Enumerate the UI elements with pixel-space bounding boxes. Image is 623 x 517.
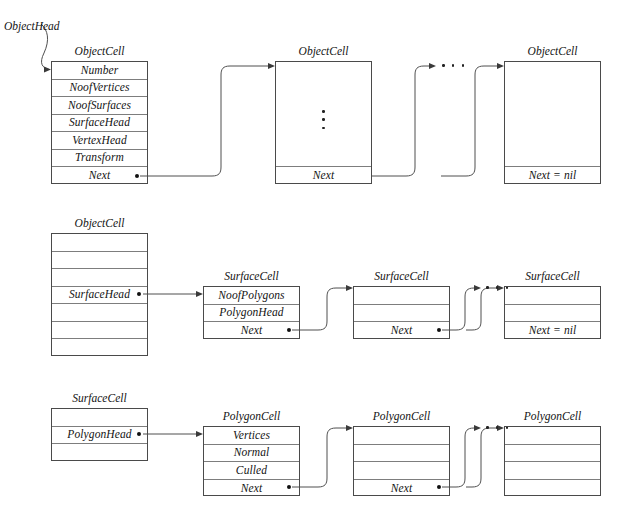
field-blank-7	[52, 339, 147, 357]
field-blank-3	[505, 462, 600, 480]
field-blank-1	[52, 234, 147, 252]
field-blank-2	[505, 305, 600, 323]
caption-surface-cell-first: SurfaceCell	[203, 271, 300, 283]
pointer-dot-object1-next	[135, 174, 139, 178]
field-next-nil: Next = nil	[505, 322, 600, 340]
field-blank-3	[52, 269, 147, 287]
field-polygonhead: PolygonHead	[52, 427, 147, 445]
field-next: Next	[276, 167, 371, 185]
field-vertexhead: VertexHead	[52, 132, 147, 150]
surface-cell-middle: Next	[353, 286, 450, 339]
wire-object1-to-object2	[140, 66, 272, 176]
field-next: Next	[52, 167, 147, 185]
field-next: Next	[354, 480, 449, 498]
wire-surface1-to-surface2	[292, 288, 350, 330]
arrowhead-polygon2	[346, 425, 353, 431]
field-blank-3	[52, 444, 147, 462]
pointer-dot-polygonhead	[137, 432, 141, 436]
field-blank-2	[354, 305, 449, 323]
arrowhead-object3	[497, 63, 504, 69]
field-transform: Transform	[52, 150, 147, 168]
caption-polygon-cell-last: PolygonCell	[504, 411, 601, 423]
surface-cell-polygonhead: PolygonHead	[51, 408, 148, 461]
linked-list-diagram: ObjectHead ObjectCell Number NoofVertice…	[0, 0, 623, 517]
polygon-cell-last	[504, 426, 601, 496]
field-blank-2	[505, 445, 600, 463]
arrowhead-surface2	[346, 285, 353, 291]
field-noofvertices: NoofVertices	[52, 80, 147, 98]
caption-object-cell-surfacehead: ObjectCell	[51, 218, 148, 230]
pointer-dot-polygon1-next	[287, 485, 291, 489]
wire-polygon1-to-polygon2	[292, 428, 350, 487]
wire-ellipsis-to-surface3-hidden	[450, 288, 510, 330]
caption-object-cell-last: ObjectCell	[504, 46, 601, 58]
field-blank-1	[52, 409, 147, 427]
field-blank-3	[354, 462, 449, 480]
field-next: Next	[204, 480, 299, 498]
arrowhead-surface1	[196, 291, 203, 297]
pointer-dot-surfacehead	[137, 292, 141, 296]
caption-polygon-cell-first: PolygonCell	[203, 411, 300, 423]
wire-ellipsis-to-object3	[441, 66, 501, 176]
objecthead-label: ObjectHead	[4, 21, 60, 33]
surface-cell-first: NoofPolygons PolygonHead Next	[203, 286, 300, 339]
field-blank-last	[505, 62, 600, 167]
field-surfacehead: SurfaceHead	[52, 287, 147, 305]
field-culled: Culled	[204, 462, 299, 480]
field-blank-1	[354, 287, 449, 305]
field-blank-2	[354, 445, 449, 463]
wire-ellipsis-to-surface3	[466, 288, 501, 330]
objecthead-arrowhead	[44, 67, 51, 73]
caption-object-cell-first: ObjectCell	[51, 46, 148, 58]
arrowhead-polygon1	[196, 431, 203, 437]
object-cell-surfacehead: SurfaceHead	[51, 233, 148, 356]
horizontal-ellipsis-icon-row1	[442, 64, 464, 67]
pointer-dot-surface1-next	[287, 328, 291, 332]
wire-ellipsis-to-polygon3	[466, 428, 501, 487]
field-blank-1	[505, 287, 600, 305]
field-blank-2	[52, 252, 147, 270]
field-noofsurfaces: NoofSurfaces	[52, 97, 147, 115]
field-number: Number	[52, 62, 147, 80]
field-blank-5	[52, 304, 147, 322]
caption-surface-cell-last: SurfaceCell	[504, 271, 601, 283]
polygon-cell-middle: Next	[353, 426, 450, 496]
field-blank-1	[354, 427, 449, 445]
arrowhead-ellipsis-row3	[474, 425, 481, 431]
caption-object-cell-middle: ObjectCell	[275, 46, 372, 58]
field-next: Next	[354, 322, 449, 340]
object-cell-last: Next = nil	[504, 61, 601, 184]
field-blank-1	[505, 427, 600, 445]
arrowhead-ellipsis-row1	[429, 63, 436, 69]
caption-surface-cell-polygonhead: SurfaceCell	[51, 393, 148, 405]
object-cell-first: Number NoofVertices NoofSurfaces Surface…	[51, 61, 148, 184]
polygon-cell-first: Vertices Normal Culled Next	[203, 426, 300, 496]
field-noofpolygons: NoofPolygons	[204, 287, 299, 305]
field-surfacehead: SurfaceHead	[52, 115, 147, 133]
field-polygonhead: PolygonHead	[204, 305, 299, 323]
arrowhead-object2	[268, 63, 275, 69]
vertical-ellipsis-icon	[322, 110, 325, 129]
arrowhead-ellipsis-row2	[474, 285, 481, 291]
caption-polygon-cell-middle: PolygonCell	[353, 411, 450, 423]
field-next-nil: Next = nil	[505, 167, 600, 185]
field-vertices: Vertices	[204, 427, 299, 445]
wire-object2-to-ellipsis	[372, 66, 433, 176]
field-blank-6	[52, 322, 147, 340]
field-next: Next	[204, 322, 299, 340]
pointer-dot-surface2-next	[437, 328, 441, 332]
pointer-dot-polygon2-next	[437, 485, 441, 489]
field-normal: Normal	[204, 445, 299, 463]
field-blank-4	[505, 480, 600, 498]
caption-surface-cell-middle: SurfaceCell	[353, 271, 450, 283]
surface-cell-last: Next = nil	[504, 286, 601, 339]
